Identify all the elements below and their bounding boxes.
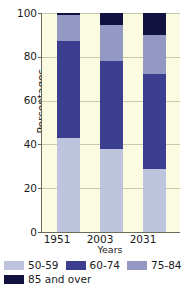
y-tick-60 — [38, 101, 42, 102]
legend-swatch-75-84 — [127, 261, 147, 270]
y-tick-label-0: 0 — [3, 227, 37, 238]
legend-swatch-60-74 — [66, 261, 86, 270]
bar-segment-60-74 — [143, 74, 166, 168]
bar-2003 — [100, 13, 123, 232]
legend-row-1: 50-59 60-74 75-84 — [4, 258, 184, 272]
bar-segment-50-59 — [100, 149, 123, 232]
plot-area — [41, 13, 180, 233]
bar-segment-85-and-over — [143, 13, 166, 35]
legend-item-50-59: 50-59 — [4, 260, 59, 271]
y-axis: 100 80 60 40 20 0 — [0, 0, 37, 287]
bar-segment-60-74 — [57, 41, 80, 137]
x-axis-title: Years — [41, 245, 179, 255]
legend-swatch-85-and-over — [4, 275, 24, 284]
y-tick-label-20: 20 — [3, 183, 37, 194]
stacked-bar-chart: 100 80 60 40 20 0 Percentages — [0, 0, 184, 287]
x-tick-label-1951: 1951 — [34, 234, 80, 245]
y-tick-100 — [38, 13, 42, 14]
bar-segment-50-59 — [143, 169, 166, 233]
y-tick-80 — [38, 57, 42, 58]
legend-swatch-50-59 — [4, 261, 24, 270]
legend-label-85-and-over: 85 and over — [28, 274, 91, 285]
y-tick-label-100: 100 — [3, 8, 37, 19]
y-tick-40 — [38, 144, 42, 145]
bar-segment-50-59 — [57, 138, 80, 232]
y-tick-label-40: 40 — [3, 139, 37, 150]
y-tick-20 — [38, 188, 42, 189]
bar-segment-75-84 — [100, 25, 123, 61]
bar-segment-75-84 — [57, 15, 80, 41]
legend-label-60-74: 60-74 — [90, 260, 121, 271]
bar-segment-60-74 — [100, 61, 123, 149]
legend-item-60-74: 60-74 — [66, 260, 121, 271]
legend-label-50-59: 50-59 — [28, 260, 59, 271]
bar-2031 — [143, 13, 166, 232]
bar-1951 — [57, 13, 80, 232]
bar-segment-75-84 — [143, 35, 166, 74]
chart-legend: 50-59 60-74 75-84 85 and over — [4, 258, 184, 286]
y-tick-label-60: 60 — [3, 95, 37, 106]
legend-item-75-84: 75-84 — [127, 260, 182, 271]
legend-row-2: 85 and over — [4, 272, 184, 286]
bar-segment-85-and-over — [100, 13, 123, 25]
legend-label-75-84: 75-84 — [151, 260, 182, 271]
legend-item-85-and-over: 85 and over — [4, 274, 91, 285]
x-tick-label-2031: 2031 — [120, 234, 166, 245]
y-tick-label-80: 80 — [3, 51, 37, 62]
y-tick-0 — [38, 232, 42, 233]
